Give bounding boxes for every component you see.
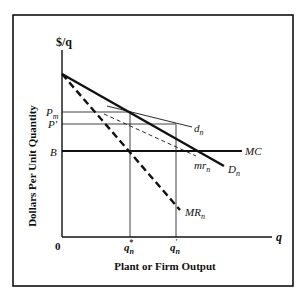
q-prime-label: qn': [170, 238, 181, 256]
x-axis-title: Plant or Firm Output: [114, 260, 216, 272]
x-axis-label: q: [276, 230, 282, 244]
mrn-market-label: MRn: [184, 206, 205, 221]
mrn-firm-marginal-revenue-curve: [104, 114, 196, 156]
economics-diagram: $/q Dollars Per Unit Quantity Pm P' B 0 …: [0, 0, 307, 294]
mrn-firm-label: mrn: [194, 159, 210, 174]
dn-market-demand-label: Dn: [227, 163, 240, 178]
y-axis-title: Dollars Per Unit Quantity: [26, 105, 38, 227]
p-prime-label: P': [47, 118, 58, 130]
dn-firm-demand-label: dn: [194, 122, 204, 137]
mrn-market-marginal-revenue-curve: [62, 74, 180, 210]
origin-label: 0: [55, 240, 61, 252]
dn-market-demand-curve: [62, 74, 224, 166]
mc-label: MC: [244, 145, 262, 157]
b-label: B: [50, 146, 57, 158]
q-star-label: qn*: [124, 238, 135, 256]
y-axis-label: $/q: [56, 35, 72, 49]
